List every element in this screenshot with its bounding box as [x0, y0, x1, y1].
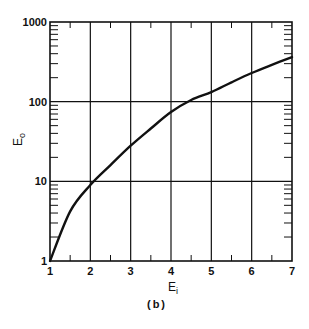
y-tick-label: 10: [35, 175, 47, 187]
x-axis-label: Ei: [168, 280, 178, 296]
x-tick-label: 5: [208, 265, 214, 277]
x-tick-label: 1: [47, 265, 53, 277]
y-tick-label: 100: [29, 96, 47, 108]
x-tick-label: 4: [168, 265, 175, 277]
grid-lines: [50, 22, 292, 261]
y-axis-label: Eo: [11, 133, 27, 146]
x-tick-label: 3: [128, 265, 134, 277]
x-tick-label: 7: [289, 265, 295, 277]
figure-caption: (b): [147, 298, 167, 310]
y-tick-label: 1: [41, 255, 47, 267]
y-tick-label: 1000: [23, 16, 47, 28]
y-tick-labels: 1101001000: [23, 16, 47, 267]
x-tick-labels: 1234567: [47, 265, 295, 277]
x-tick-label: 6: [249, 265, 255, 277]
x-tick-label: 2: [87, 265, 93, 277]
chart: 1234567 1101001000 Ei Eo (b): [0, 0, 309, 329]
